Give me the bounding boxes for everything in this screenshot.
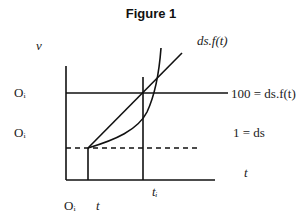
y-axis-label: v bbox=[36, 38, 42, 54]
o-lower-label: Oᵢ bbox=[14, 125, 26, 141]
dashed-line-label: 1 = ds bbox=[233, 125, 265, 141]
diagram-canvas bbox=[0, 0, 302, 218]
curve-label: ds.f(t) bbox=[197, 33, 228, 49]
t-tick-label: t bbox=[96, 198, 100, 214]
exponential-curve bbox=[88, 48, 161, 148]
origin-label: Oᵢ bbox=[64, 198, 76, 214]
t1-tick-label: tᵢ bbox=[152, 184, 158, 200]
upper-line-label: 100 = ds.f(t) bbox=[231, 86, 296, 102]
o-upper-label: Oᵢ bbox=[14, 85, 26, 101]
straight-line bbox=[88, 53, 182, 148]
x-axis-label: t bbox=[244, 165, 248, 181]
